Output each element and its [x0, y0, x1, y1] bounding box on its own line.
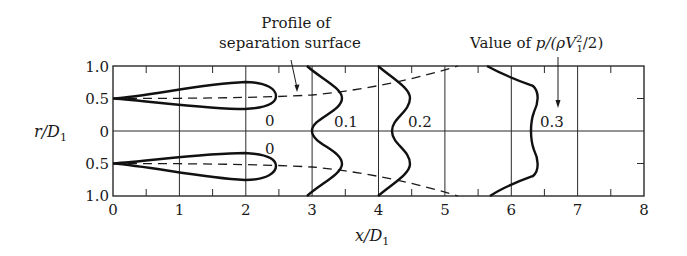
y-tick-top-0.5: 0.5	[85, 90, 109, 108]
contour-label-0-lower: 0	[265, 140, 275, 158]
x-tick-0: 0	[108, 201, 118, 219]
value-arrow-head	[556, 100, 561, 108]
contour-label-0-upper: 0	[265, 112, 275, 130]
contour-label-0.2: 0.2	[408, 113, 432, 131]
y-tick-bottom-1.0: 1.0	[85, 187, 109, 205]
contour-0-upper	[113, 82, 276, 109]
profile-label-line1: Profile of	[261, 14, 332, 32]
x-tick-3: 3	[307, 201, 317, 219]
x-tick-2: 2	[241, 201, 251, 219]
value-label: Value of p/(ρV21/2)	[469, 33, 603, 54]
profile-label-line2: separation surface	[219, 34, 361, 52]
x-tick-8: 8	[639, 201, 649, 219]
diagram-canvas: Profile of separation surface Value of p…	[0, 0, 687, 256]
y-tick-0: 0	[99, 123, 109, 141]
contour-0-lower	[113, 153, 276, 180]
x-tick-1: 1	[175, 201, 185, 219]
x-axis-label: x/D1	[355, 226, 389, 248]
x-tick-6: 6	[507, 201, 517, 219]
y-axis-label: r/D1	[34, 122, 67, 144]
separation-surface-upper	[113, 66, 458, 99]
x-tick-7: 7	[573, 201, 583, 219]
y-tick-bottom-0.5: 0.5	[85, 155, 109, 173]
x-tick-4: 4	[374, 201, 384, 219]
contour-label-0.3: 0.3	[540, 113, 564, 131]
y-tick-top-1.0: 1.0	[85, 58, 109, 76]
profile-arrow	[291, 60, 297, 88]
separation-surface-lower	[113, 164, 458, 197]
contour-label-0.1: 0.1	[334, 113, 358, 131]
profile-arrow-head	[295, 85, 300, 93]
x-tick-5: 5	[440, 201, 450, 219]
